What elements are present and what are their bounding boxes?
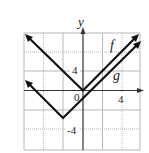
- g-label: g: [113, 68, 120, 83]
- y-tick-neg4: -4: [67, 124, 77, 136]
- f-label: f: [110, 38, 116, 53]
- series-f: [25, 34, 139, 91]
- graph: 4 -4 0 4 y f g: [0, 0, 149, 153]
- origin-label: 0: [74, 91, 80, 103]
- x-tick-4: 4: [118, 93, 124, 105]
- y-tick-4: 4: [72, 64, 78, 76]
- y-axis-label: y: [76, 14, 84, 29]
